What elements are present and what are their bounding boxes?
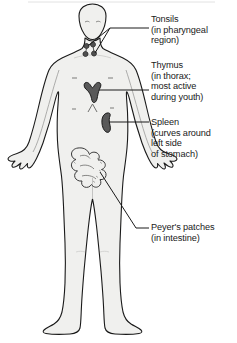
tonsil-node-1: [84, 44, 89, 49]
tonsil-node-3: [83, 52, 88, 57]
label-tonsils-title: Tonsils: [151, 14, 208, 25]
label-peyers-patches: Peyer's patches (in intestine): [151, 222, 215, 243]
label-tonsils-detail-1: (in pharyngeal: [151, 25, 208, 36]
label-thymus-title: Thymus: [151, 60, 203, 71]
label-spleen-detail-1: (curves around: [151, 128, 211, 139]
human-body-figure: [0, 0, 237, 343]
label-spleen-detail-2: left side: [151, 138, 211, 149]
label-thymus-detail-3: during youth): [151, 92, 203, 103]
label-peyers-detail-1: (in intestine): [151, 233, 215, 244]
label-thymus: Thymus (in thorax; most active during yo…: [151, 60, 203, 102]
lymphatic-system-diagram: Tonsils (in pharyngeal region) Thymus (i…: [0, 0, 237, 343]
label-spleen: Spleen (curves around left side of stoma…: [151, 117, 211, 159]
label-spleen-title: Spleen: [151, 117, 211, 128]
label-thymus-detail-1: (in thorax;: [151, 71, 203, 82]
label-thymus-detail-2: most active: [151, 81, 203, 92]
label-tonsils-detail-2: region): [151, 35, 208, 46]
label-peyers-title: Peyer's patches: [151, 222, 215, 233]
label-tonsils: Tonsils (in pharyngeal region): [151, 14, 208, 46]
label-spleen-detail-3: of stomach): [151, 149, 211, 160]
